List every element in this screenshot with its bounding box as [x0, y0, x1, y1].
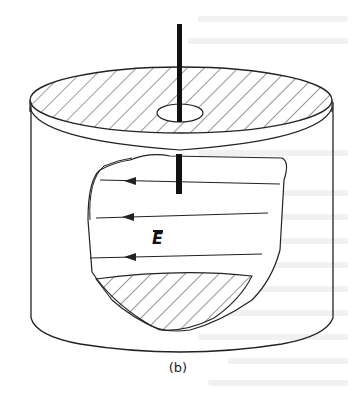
electric-field-label: E — [152, 229, 163, 248]
vector-overbar — [153, 230, 163, 232]
cutaway-region — [88, 155, 287, 331]
figure-caption: (b) — [0, 360, 356, 375]
cylinder-diagram — [0, 0, 356, 393]
